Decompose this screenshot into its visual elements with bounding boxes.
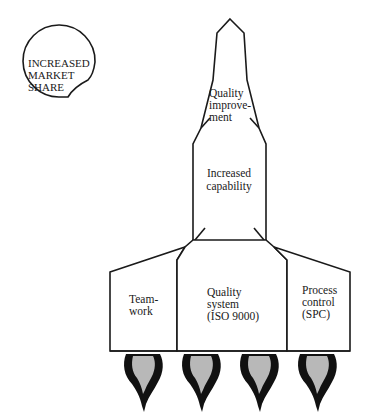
badge-line-1: INCREASED [28,57,90,69]
flame-icon [240,354,279,412]
booster-right-line-2: control [302,296,335,308]
rocket-nose-and-body [193,19,266,247]
booster-right-line-3: (SPC) [302,308,330,321]
market-share-badge: INCREASED MARKET SHARE [23,25,95,97]
flame-icon [298,354,337,412]
rocket-upper [185,19,274,252]
badge-line-3: SHARE [28,81,64,93]
booster-center-line-3: (ISO 9000) [207,310,259,323]
booster-right-line-1: Process [302,284,338,296]
flame-icon [124,354,163,412]
badge-line-2: MARKET [28,69,75,81]
rocket-diagram: INCREASED MARKET SHARE Quality improve- … [0,0,371,414]
body-label-line-2: capability [206,180,252,193]
flame-icon [182,354,221,412]
booster-left-line-1: Team- [129,293,158,305]
booster-left-line-2: work [129,305,153,317]
body-label-line-1: Increased [207,167,251,179]
flames [124,354,337,412]
nose-label-line-3: ment [209,111,233,123]
body-label: Increased capability [206,167,252,193]
